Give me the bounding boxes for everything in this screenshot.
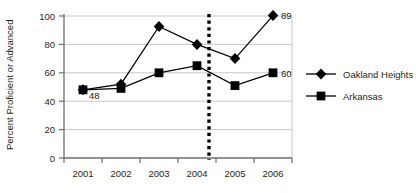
x-tick-label-2004: 2004 [186, 168, 207, 179]
data-point-arkansas-2003 [155, 68, 164, 77]
x-tick-label-2006: 2006 [262, 168, 283, 179]
data-point-arkansas-2004 [193, 61, 202, 70]
legend-item-oakland-heights[interactable]: Oakland Heights [306, 69, 413, 80]
y-tick-label-0: 0 [50, 153, 55, 164]
legend-square-marker-icon [317, 92, 326, 101]
x-tick-label-2003: 2003 [148, 168, 169, 179]
data-label-60: 60 [281, 68, 292, 79]
legend-label-arkansas: Arkansas [343, 91, 383, 102]
x-tick-label-2002: 2002 [110, 168, 131, 179]
y-tick-label-60: 60 [44, 67, 55, 78]
data-point-arkansas-2005 [231, 81, 240, 90]
legend-label-oakland-heights: Oakland Heights [343, 69, 413, 80]
y-tick-label-80: 80 [44, 39, 55, 50]
x-tick-label-2005: 2005 [224, 168, 245, 179]
chart-container: Percent Proficient or Advanced 100 [0, 0, 416, 193]
y-tick-label-100: 100 [39, 11, 55, 22]
y-axis-title: Percent Proficient or Advanced [4, 20, 15, 150]
y-tick-label-20: 20 [44, 124, 55, 135]
data-label-89: 89 [281, 10, 292, 21]
y-tick-label-40: 40 [44, 96, 55, 107]
data-label-48: 48 [89, 90, 100, 101]
data-point-arkansas-2001 [79, 85, 88, 94]
legend-item-arkansas[interactable]: Arkansas [306, 91, 383, 102]
data-point-arkansas-2002 [117, 84, 126, 93]
data-point-arkansas-2006 [269, 68, 278, 77]
x-tick-label-2001: 2001 [72, 168, 93, 179]
line-chart: Percent Proficient or Advanced 100 [0, 0, 416, 193]
